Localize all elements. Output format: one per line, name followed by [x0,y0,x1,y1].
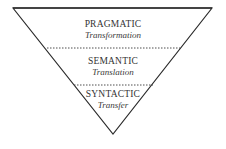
level-pragmatic-name: PRAGMATIC [0,20,226,30]
level-syntactic-name: SYNTACTIC [0,90,226,100]
level-pragmatic-subtitle: Transformation [0,31,226,40]
level-semantic-subtitle: Translation [0,68,226,77]
level-syntactic-subtitle: Transfer [0,101,226,110]
level-semantic-name: SEMANTIC [0,57,226,67]
